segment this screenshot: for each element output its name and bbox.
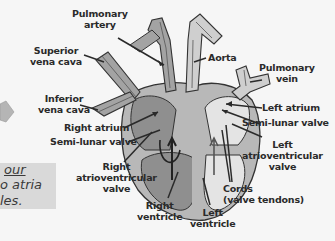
label-line: Left [190,207,235,218]
label-line: Left [242,139,323,150]
note-line-2: o atria [0,177,42,192]
label-left-atrium: Left atrium [262,102,320,113]
label-line: ventricle [137,211,182,222]
note-box: our o atria les. [0,163,56,209]
label-line: Cords [223,183,304,194]
pointer-arrow-icon [0,101,14,122]
label-left-ventricle: Left ventricle [190,207,235,229]
label-line: vena cava [30,56,82,67]
label-left-av-valve: Left atrioventricular valve [242,139,323,172]
label-line: valve [76,183,157,194]
label-line: atrioventricular [76,172,157,183]
label-line: Semi-lunar valve [50,136,137,147]
label-line: Left atrium [262,102,320,113]
label-pulmonary-artery: Pulmonary artery [72,8,128,30]
label-line: ventricle [190,218,235,229]
label-pulmonary-vein: Pulmonary vein [259,62,315,84]
label-line: atrioventricular [242,150,323,161]
superior-vena-cava [96,52,140,102]
septum [192,105,204,205]
label-right-atrium: Right atrium [64,122,129,133]
label-line: Aorta [208,52,237,63]
label-cords: Cords (valve tendons) [223,183,304,205]
note-line-1: our [4,163,26,177]
label-aorta: Aorta [208,52,237,63]
label-superior-vena-cava: Superior vena cava [30,45,82,67]
label-line: Pulmonary [259,62,315,73]
label-line: Superior [30,45,82,56]
label-line: Inferior [38,93,90,104]
label-right-av-valve: Right atrioventricular valve [76,161,157,194]
label-line: Right atrium [64,122,129,133]
label-line: vena cava [38,104,90,115]
label-line: Semi-lunar valve [242,117,329,128]
label-line: Pulmonary [72,8,128,19]
label-semi-lunar-valve-left: Semi-lunar valve [242,117,329,128]
label-inferior-vena-cava: Inferior vena cava [38,93,90,115]
label-line: (valve tendons) [223,194,304,205]
label-semi-lunar-valve-right: Semi-lunar valve [50,136,137,147]
label-right-ventricle: Right ventricle [137,200,182,222]
label-line: vein [259,73,315,84]
label-line: artery [72,19,128,30]
note-line-3: les. [0,193,23,208]
label-line: valve [242,161,323,172]
label-line: Right [76,161,157,172]
label-line: Right [137,200,182,211]
